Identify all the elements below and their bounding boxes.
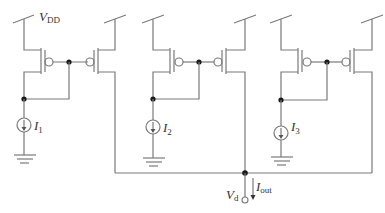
- output-bus: [115, 170, 372, 203]
- pmos-transistor-m3: [153, 19, 183, 99]
- iout-label: Iout: [255, 179, 272, 195]
- ground-icon: [14, 155, 36, 163]
- pmos-transistor-m4: [214, 19, 245, 173]
- pmos-transistor-m2: [86, 19, 115, 173]
- ground-icon: [143, 158, 165, 166]
- ground-icon: [271, 157, 293, 165]
- mirror-cell-2: I2: [142, 15, 256, 173]
- mirror-cell-1: I1: [13, 15, 126, 173]
- current-source-i1: [17, 99, 31, 155]
- circuit-diagram: I1: [0, 0, 385, 213]
- current-source-i3: [274, 100, 288, 157]
- mirror-cell-3: I3: [270, 15, 383, 173]
- vd-label: Vd: [226, 187, 239, 203]
- i3-label: I3: [290, 119, 300, 136]
- pmos-transistor-m6: [342, 19, 372, 173]
- i1-label: I1: [33, 118, 43, 135]
- output-terminal: [242, 197, 248, 203]
- pmos-transistor-m5: [281, 19, 311, 100]
- vdd-label: VDD: [39, 9, 60, 25]
- pmos-transistor-m1: [24, 19, 53, 99]
- current-source-i2: [146, 99, 160, 158]
- i2-label: I2: [162, 120, 172, 137]
